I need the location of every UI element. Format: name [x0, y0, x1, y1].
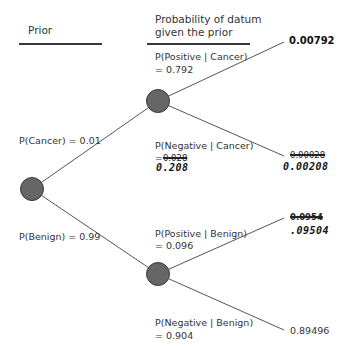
likelihood-header-rule — [147, 43, 250, 45]
likelihood-header-line2: given the prior — [155, 26, 232, 39]
prior-header-rule — [19, 43, 102, 45]
outcome-cancer-negative-struck: 0.00028 — [290, 150, 325, 160]
outcome-benign-positive-handwritten: .09504 — [290, 225, 329, 236]
prior-cancer-label: P(Cancer) = 0.01 — [19, 135, 101, 148]
outcome-benign-negative: 0.89496 — [290, 325, 329, 336]
prior-benign-label: P(Benign) = 0.99 — [19, 231, 100, 244]
pos-cancer-label-1: P(Positive | Cancer) — [155, 51, 247, 64]
cancer-node — [147, 90, 170, 113]
pos-cancer-label-2: = 0.792 — [155, 64, 193, 77]
pos-benign-label-1: P(Positive | Benign) — [155, 228, 247, 241]
outcome-cancer-positive: 0.00792 — [289, 35, 335, 46]
outcome-cancer-negative-handwritten: 0.00208 — [283, 161, 329, 172]
neg-cancer-label-1: P(Negative | Cancer) — [155, 140, 253, 153]
benign-node — [147, 263, 170, 286]
neg-benign-label-1: P(Negative | Benign) — [155, 317, 253, 330]
root-node — [21, 178, 44, 201]
pos-benign-label-2: = 0.096 — [155, 240, 193, 253]
prior-header: Prior — [28, 24, 52, 37]
outcome-benign-positive-struck: 0.0954 — [290, 212, 323, 222]
neg-benign-label-2: = 0.904 — [155, 330, 193, 343]
likelihood-header-line1: Probability of datum — [155, 13, 261, 26]
neg-cancer-handwritten-value: 0.208 — [156, 162, 189, 173]
